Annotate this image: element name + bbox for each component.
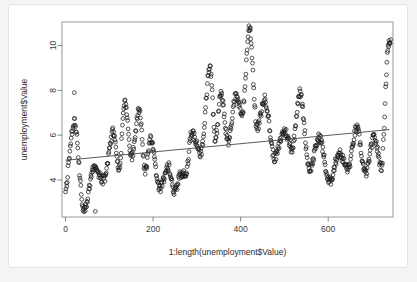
data-point (383, 115, 387, 119)
data-point (78, 179, 82, 183)
data-point (223, 121, 227, 125)
x-tick-label: 600 (321, 224, 335, 234)
data-point (127, 138, 131, 142)
data-point (381, 138, 385, 142)
data-point (114, 140, 118, 144)
data-point (385, 60, 389, 64)
x-axis-ticks: 0200400600 (63, 217, 335, 234)
data-point (202, 126, 206, 130)
data-point (204, 106, 208, 110)
data-point (224, 127, 228, 131)
data-point (128, 144, 132, 148)
data-point (267, 119, 271, 123)
data-point (250, 45, 254, 49)
data-point (304, 141, 308, 145)
data-point (141, 143, 145, 147)
data-point (243, 85, 247, 89)
data-point (205, 82, 209, 86)
data-point (243, 89, 247, 93)
data-point (210, 88, 214, 92)
data-point (187, 150, 191, 154)
data-point (211, 96, 215, 100)
data-point (143, 172, 147, 176)
data-point (76, 146, 80, 150)
y-tick-label: 8 (48, 88, 58, 93)
chart-canvas: 0200400600 46810 1:length(unemployment$V… (9, 5, 409, 269)
data-point (130, 158, 134, 162)
data-point (353, 133, 357, 137)
data-point (252, 97, 256, 101)
data-point (382, 132, 386, 136)
data-point (231, 110, 235, 114)
data-point (121, 123, 125, 127)
data-point (80, 198, 84, 202)
data-point (133, 136, 137, 140)
data-point (376, 145, 380, 149)
data-point (135, 122, 139, 126)
data-point (244, 72, 248, 76)
y-tick-label: 4 (48, 177, 58, 182)
data-point (66, 176, 70, 180)
data-point (244, 76, 248, 80)
x-tick-label: 400 (234, 224, 248, 234)
data-point (251, 61, 255, 65)
data-point (126, 119, 130, 123)
data-point (292, 134, 296, 138)
x-tick-label: 0 (63, 224, 68, 234)
data-point (381, 147, 385, 151)
data-point (244, 58, 248, 62)
data-point (250, 56, 254, 60)
data-point (385, 73, 389, 77)
data-point (230, 117, 234, 121)
data-point (245, 52, 249, 56)
plot-frame (62, 22, 393, 217)
data-point (79, 193, 83, 197)
data-point (119, 156, 123, 160)
data-point (79, 183, 83, 187)
data-point (245, 48, 249, 52)
y-tick-label: 6 (48, 133, 58, 138)
data-point (127, 132, 131, 136)
ghost-caption (10, 272, 240, 280)
plot-card: 0200400600 46810 1:length(unemployment$V… (8, 4, 408, 268)
data-point (140, 128, 144, 132)
data-point (349, 157, 353, 161)
data-point (295, 110, 299, 114)
data-point-outlier (93, 210, 97, 214)
data-point (203, 110, 207, 114)
data-point (321, 145, 325, 149)
data-point (350, 149, 354, 153)
y-tick-label: 10 (48, 41, 58, 51)
data-point (126, 127, 130, 131)
data-point (249, 42, 253, 46)
data-point (349, 154, 353, 158)
data-point (203, 121, 207, 125)
data-point (114, 145, 118, 149)
data-point (121, 117, 125, 121)
data-point (230, 121, 234, 125)
data-point (68, 149, 72, 153)
data-point (120, 132, 124, 136)
x-tick-label: 200 (146, 224, 160, 234)
screenshot-root: 0200400600 46810 1:length(unemployment$V… (0, 0, 417, 282)
r-scatter-plot: 0200400600 46810 1:length(unemployment$V… (9, 5, 409, 269)
data-point (153, 157, 157, 161)
data-point (140, 138, 144, 142)
data-point (246, 35, 250, 39)
data-point (120, 137, 124, 141)
data-point (75, 141, 79, 145)
data-point (69, 142, 73, 146)
data-point (263, 93, 267, 97)
y-axis-title: unemployment$Value (19, 78, 29, 160)
data-point (105, 166, 109, 170)
x-axis-title: 1:length(unemployment$Value) (169, 247, 287, 257)
data-point (383, 102, 387, 106)
data-point (249, 37, 253, 41)
data-point (251, 68, 255, 72)
y-axis-ticks: 46810 (48, 41, 62, 183)
data-point (323, 163, 327, 167)
data-point (69, 136, 73, 140)
data-point-outlier (72, 91, 76, 95)
data-points-group (64, 24, 393, 214)
data-point (145, 156, 149, 160)
